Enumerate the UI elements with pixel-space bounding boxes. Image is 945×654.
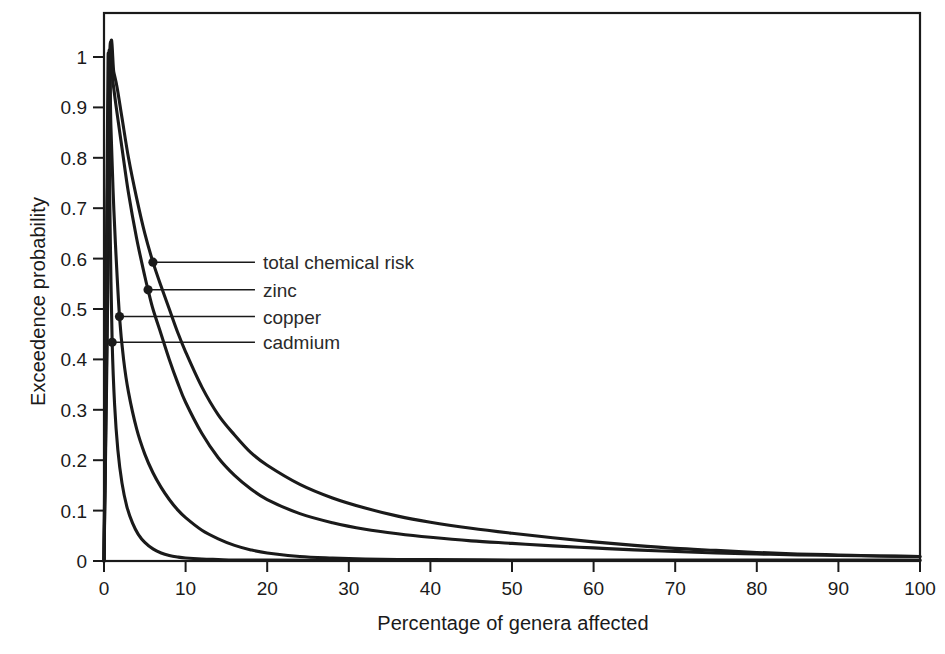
series-label: zinc [263,280,297,301]
data-curves [104,40,920,561]
series-curve [104,40,920,561]
plot-frame [104,13,920,561]
y-tick-label: 0.6 [61,249,87,270]
x-tick-label: 90 [828,578,849,599]
series-marker-dot [148,258,157,267]
chart-plot-area: 010203040506070809010000.10.20.30.40.50.… [0,0,945,654]
y-tick-label: 0.3 [61,400,87,421]
y-tick-label: 0.4 [61,349,88,370]
y-tick-label: 0.1 [61,501,87,522]
series-label: cadmium [263,332,340,353]
series-label: copper [263,307,322,328]
x-tick-label: 80 [746,578,767,599]
series-curve [104,50,920,561]
x-tick-label: 40 [420,578,441,599]
series-curve [104,42,920,561]
y-tick-label: 0.5 [61,299,87,320]
y-tick-label: 0.7 [61,198,87,219]
x-tick-label: 50 [501,578,522,599]
series-curve [104,53,920,561]
x-tick-label: 100 [904,578,936,599]
axis-ticks [93,57,920,572]
series-marker-dot [115,312,124,321]
series-marker-dot [108,338,117,347]
series-marker-dot [143,285,152,294]
y-tick-label: 0 [76,551,87,572]
x-tick-label: 10 [175,578,196,599]
series-label: total chemical risk [263,252,414,273]
y-tick-label: 0.8 [61,148,87,169]
x-tick-label: 70 [665,578,686,599]
y-tick-label: 0.9 [61,97,87,118]
x-axis-label: Percentage of genera affected [104,612,922,635]
x-tick-label: 60 [583,578,604,599]
axis-tick-labels: 010203040506070809010000.10.20.30.40.50.… [61,47,936,599]
annotation-leaders [112,262,255,342]
y-tick-label: 0.2 [61,450,87,471]
y-tick-label: 1 [76,47,87,68]
x-tick-label: 0 [99,578,110,599]
series-annotation-labels: total chemical riskzinccoppercadmium [263,252,414,353]
chart-figure: 010203040506070809010000.10.20.30.40.50.… [0,0,945,654]
x-tick-label: 20 [257,578,278,599]
x-tick-label: 30 [338,578,359,599]
